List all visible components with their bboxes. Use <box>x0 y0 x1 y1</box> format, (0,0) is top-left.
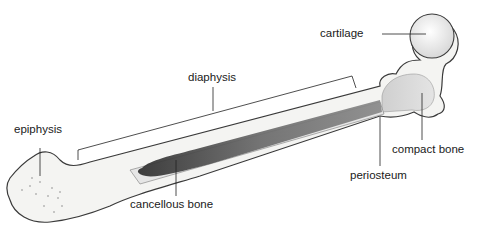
femoral-head <box>410 14 454 58</box>
bone-diagram: cartilage diaphysis epiphysis compact bo… <box>0 0 480 238</box>
marrow-cavity <box>138 100 382 176</box>
label-periosteum: periosteum <box>350 170 407 182</box>
label-cartilage: cartilage <box>320 28 363 40</box>
label-cancellous-bone: cancellous bone <box>130 199 213 211</box>
label-epiphysis: epiphysis <box>14 124 62 136</box>
bone-outline <box>7 21 458 223</box>
label-compact-bone: compact bone <box>392 144 464 156</box>
bone-illustration <box>0 0 480 238</box>
label-diaphysis: diaphysis <box>188 72 236 84</box>
